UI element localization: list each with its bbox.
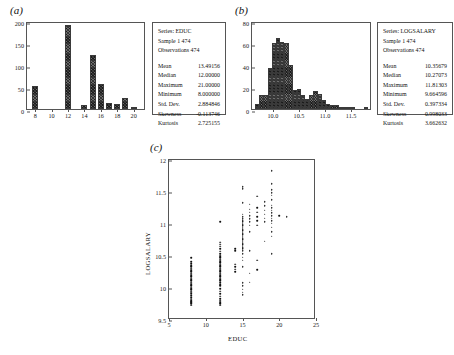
stats-table-educ: Mean13.49156Median12.00000Maximum21.0000… [158, 62, 220, 129]
scatter-point [242, 250, 244, 252]
stats-row: Maximum11.81303 [383, 81, 447, 91]
scatter-point [190, 263, 192, 265]
scatter-point [271, 192, 273, 194]
histogram-bar [90, 55, 96, 109]
scatter-point [271, 253, 273, 255]
scatter-point [242, 294, 244, 296]
y-axis-tick: 100 [15, 64, 27, 71]
stats-panel-logsalary: Series: LOGSALARY Sample 1 474 Observati… [377, 22, 453, 115]
y-axis-tick: 20 [243, 86, 252, 93]
stats-row: Kurtosis3.662632 [383, 119, 447, 129]
histogram-educ-bars [27, 23, 144, 109]
stats-row-name: Minimum [383, 90, 417, 100]
scatter-point [249, 250, 251, 252]
scatter-point [242, 285, 244, 287]
scatter-point [190, 257, 192, 259]
x-axis-tickmark [325, 109, 326, 112]
scatter-point [242, 282, 244, 284]
stats-row-value: 21.00000 [189, 81, 220, 91]
scatter-point [190, 261, 192, 263]
y-axis-tick: 0 [246, 108, 252, 115]
scatter-point [220, 295, 222, 297]
scatter-point [286, 216, 288, 218]
scatter-point [256, 224, 258, 226]
stats-row-name: Mean [383, 62, 417, 72]
histogram-bar [122, 98, 128, 109]
scatter-point [256, 269, 258, 271]
stats-row: Skewness-0.113746 [158, 110, 220, 120]
scatter-point [271, 220, 273, 222]
x-axis-tickmark [117, 109, 118, 112]
scatter-point [234, 269, 236, 271]
y-axis-tick: 11.5 [155, 189, 169, 196]
scatter-point [271, 210, 273, 212]
scatter-point [220, 244, 222, 246]
stats-row-value: 0.998033 [417, 110, 447, 120]
stats-row: Std. Dev.2.884846 [158, 100, 220, 110]
stats-row-value: 13.49156 [189, 62, 220, 72]
scatter-point [249, 215, 251, 217]
stats-row-name: Std. Dev. [383, 100, 417, 110]
y-axis-tick: 200 [15, 20, 27, 27]
stats-table-logsalary: Mean10.35679Median10.27073Maximum11.8130… [383, 62, 447, 129]
series-label: Series: EDUC [158, 27, 220, 37]
scatter-point [249, 231, 251, 233]
y-axis-tick: 11 [160, 221, 169, 228]
scatter-point [242, 288, 244, 290]
x-axis-tickmark [316, 318, 317, 321]
stats-row: Std. Dev.0.397334 [383, 100, 447, 110]
scatter-point [220, 246, 222, 248]
x-axis-tickmark [84, 109, 85, 112]
histogram-educ-plot: 0501001502008101214161820 [26, 22, 145, 110]
scatter-point [271, 217, 273, 219]
scatter-point [242, 214, 244, 216]
y-axis-tick: 150 [15, 42, 27, 49]
scatter-point [190, 297, 192, 299]
histogram-bar [32, 86, 38, 109]
scatter-point [256, 220, 258, 222]
x-axis-tickmark [299, 109, 300, 112]
stats-row-value: -0.113746 [189, 110, 220, 120]
histogram-logsalary-plot: 02040608010.010.511.011.5 [251, 22, 371, 110]
x-axis-tickmark [134, 109, 135, 112]
scatter-point [271, 226, 273, 228]
scatter-point [264, 201, 266, 203]
scatter-point [256, 260, 258, 262]
scatter-point [249, 208, 251, 210]
scatter-point [271, 199, 273, 201]
stats-row-value: 11.81303 [417, 81, 447, 91]
scatter-point [264, 221, 266, 223]
x-axis-tickmark [351, 109, 352, 112]
x-axis-tickmark [101, 109, 102, 112]
x-axis-tickmark [169, 318, 170, 321]
histogram-bar [98, 84, 104, 109]
stats-row-value: 12.00000 [189, 71, 220, 81]
stats-header-educ: Series: EDUC Sample 1 474 Observations 4… [158, 27, 220, 56]
x-axis-tickmark [35, 109, 36, 112]
scatter-point [190, 295, 192, 297]
x-axis-tickmark [273, 109, 274, 112]
scatter-educ-logsalary-plot: 9.51010.51111.512510152025 [168, 159, 315, 319]
scatter-point [249, 218, 251, 220]
scatter-point [264, 205, 266, 207]
y-axis-tick: 0 [21, 108, 27, 115]
scatter-point [249, 203, 251, 205]
y-axis-title: LOGSALARY [144, 232, 151, 275]
scatter-point [271, 194, 273, 196]
scatter-point [234, 271, 236, 273]
sample-label: Sample 1 474 [158, 37, 220, 47]
scatter-point [242, 292, 244, 294]
stats-row-value: 2.884846 [189, 100, 220, 110]
scatter-point [256, 212, 258, 214]
stats-row-name: Median [383, 71, 417, 81]
scatter-point [220, 253, 222, 255]
x-axis-title: EDUC [228, 335, 248, 342]
stats-row: Minimum9.664596 [383, 90, 447, 100]
scatter-point [242, 202, 244, 204]
y-axis-tick: 12 [160, 157, 169, 164]
scatter-point [242, 260, 244, 262]
scatter-point [271, 207, 273, 209]
stats-row: Median10.27073 [383, 71, 447, 81]
stats-row-name: Maximum [158, 81, 189, 91]
scatter-point [234, 250, 236, 252]
